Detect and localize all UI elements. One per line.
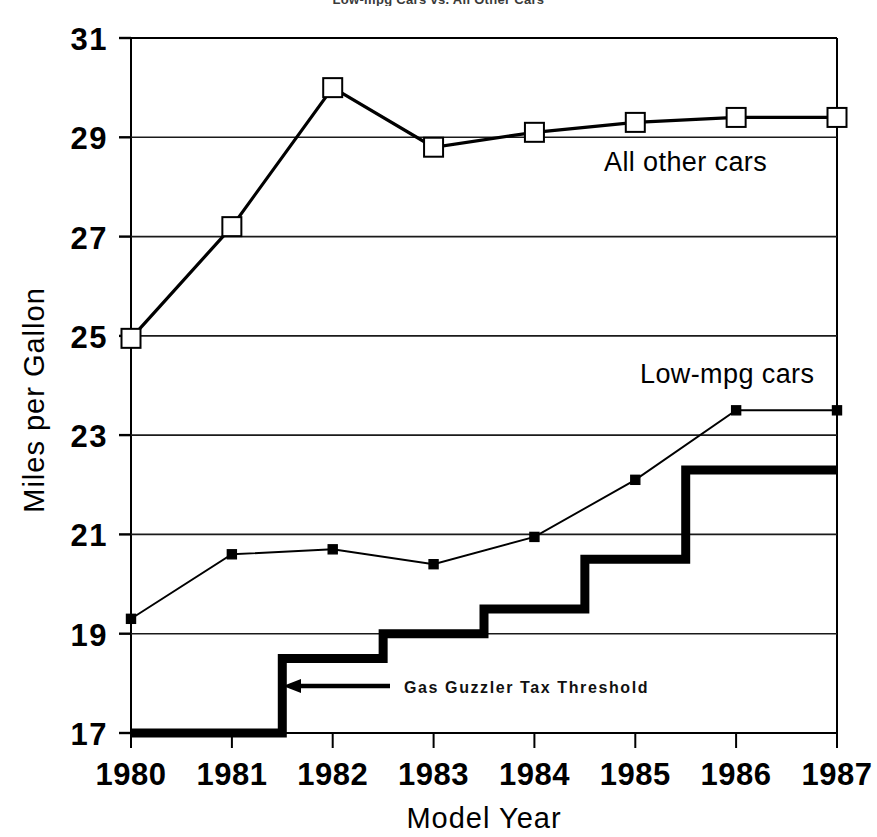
data-point-marker (626, 113, 645, 132)
data-point-marker (833, 406, 842, 415)
data-point-marker (222, 217, 241, 236)
xtick-label: 1987 (802, 757, 873, 792)
data-point-marker (525, 123, 544, 142)
plot-area-wrapper: 31 29 27 25 23 21 19 17 1980 1981 1982 1… (0, 0, 877, 837)
data-point-marker (732, 406, 741, 415)
annotation-label-gas-guzzler: Gas Guzzler Tax Threshold (404, 679, 649, 696)
data-point-marker (828, 108, 847, 127)
ytick-label: 31 (71, 22, 108, 57)
data-point-marker (328, 545, 337, 554)
y-tick-labels: 31 29 27 25 23 21 19 17 (71, 22, 108, 752)
series-line-low-mpg-cars (131, 410, 837, 619)
data-point-marker (424, 138, 443, 157)
x-tick-labels: 1980 1981 1982 1983 1984 1985 1986 1987 (96, 757, 873, 792)
data-point-marker (127, 614, 136, 623)
series-low-mpg-cars (127, 406, 842, 624)
xtick-label: 1982 (297, 757, 368, 792)
ytick-label: 21 (71, 518, 108, 553)
ytick-label: 19 (71, 618, 108, 653)
data-point-marker (429, 560, 438, 569)
data-point-marker (227, 550, 236, 559)
ytick-label: 29 (71, 121, 108, 156)
ytick-label: 17 (71, 717, 108, 752)
xtick-label: 1985 (600, 757, 671, 792)
chart-svg: 31 29 27 25 23 21 19 17 1980 1981 1982 1… (0, 0, 877, 837)
y-axis-title: Miles per Gallon (18, 287, 50, 513)
data-point-marker (530, 532, 539, 541)
series-all-other-cars (122, 78, 847, 348)
xtick-label: 1984 (499, 757, 570, 792)
data-point-marker (323, 78, 342, 97)
data-point-marker (122, 329, 141, 348)
ytick-label: 23 (71, 419, 108, 454)
series-label-all-other-cars: All other cars (604, 147, 767, 177)
series-label-low-mpg-cars: Low-mpg cars (640, 359, 814, 389)
xtick-label: 1983 (398, 757, 469, 792)
xtick-label: 1986 (701, 757, 772, 792)
series-markers-low-mpg-cars (127, 406, 842, 624)
chart-figure: Low-mpg Cars vs. All Other Cars (0, 0, 877, 837)
x-axis-title: Model Year (406, 802, 561, 834)
data-point-marker (727, 108, 746, 127)
ytick-label: 25 (71, 320, 108, 355)
y-axis-ticks (119, 38, 131, 733)
threshold-annotation: Gas Guzzler Tax Threshold (283, 679, 649, 696)
data-point-marker (631, 475, 640, 484)
xtick-label: 1981 (196, 757, 267, 792)
xtick-label: 1980 (96, 757, 167, 792)
series-markers-all-other-cars (122, 78, 847, 348)
ytick-label: 27 (71, 221, 108, 256)
